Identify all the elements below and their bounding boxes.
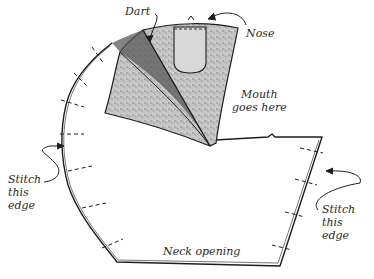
stitch-left-label: Stitch this edge <box>8 173 41 212</box>
left-stitch-arrow <box>42 146 62 182</box>
dart-label: Dart <box>125 5 150 18</box>
nose-arrow <box>212 13 246 25</box>
nose-label: Nose <box>246 27 274 40</box>
stitch-right-label: Stitch this edge <box>322 203 355 242</box>
neck-opening-label: Neck opening <box>163 245 240 258</box>
mouth-label: Mouth goes here <box>232 88 287 114</box>
right-stitch-marks <box>272 148 323 250</box>
fabric-flap <box>105 24 238 146</box>
sewing-pattern-diagram <box>0 0 374 279</box>
